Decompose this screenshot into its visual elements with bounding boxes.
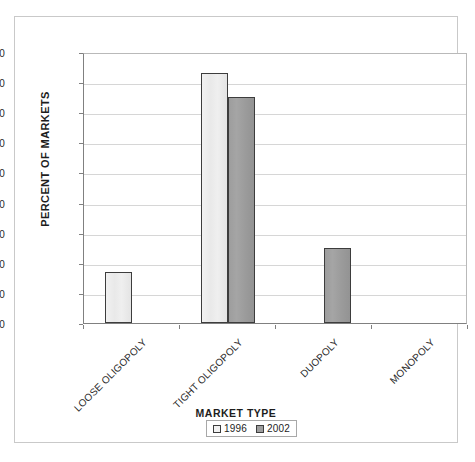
legend-swatch-icon [213, 425, 221, 433]
gridline [84, 295, 466, 296]
y-axis-tick-label: 90 [0, 48, 5, 59]
gridline [84, 235, 466, 236]
bar-1996-loose-oligopoly [105, 272, 132, 323]
x-axis-tick-mark [83, 325, 84, 329]
y-axis-tick-label: 10 [0, 288, 5, 299]
x-axis-tick-mark [467, 325, 468, 329]
x-axis-label-duopoly: DUOPOLY [298, 337, 341, 380]
gridline [84, 205, 466, 206]
y-axis: 0102030405060708090 [15, 17, 83, 361]
y-axis-tick-label: 70 [0, 108, 5, 119]
chart-frame: PERCENT OF MARKETS 0102030405060708090 L… [14, 16, 458, 443]
gridline [84, 174, 466, 175]
x-axis-label-loose-oligopoly: LOOSE OLIGOPOLY [72, 337, 149, 414]
legend-label: 1996 [224, 423, 247, 434]
y-axis-tick-label: 30 [0, 228, 5, 239]
plot-area [83, 53, 467, 324]
bar-1996-tight-oligopoly [201, 73, 228, 323]
y-axis-tick-label: 20 [0, 258, 5, 269]
x-axis-title: MARKET TYPE [15, 407, 457, 419]
legend-label: 2002 [267, 423, 290, 434]
y-axis-tick-label: 50 [0, 168, 5, 179]
legend-item-1996: 1996 [213, 423, 247, 434]
gridline [84, 144, 466, 145]
bar-2002-duopoly [324, 248, 351, 323]
y-axis-tick-label: 60 [0, 138, 5, 149]
bar-2002-tight-oligopoly [228, 97, 255, 323]
gridline [84, 84, 466, 85]
y-axis-tick-label: 80 [0, 78, 5, 89]
gridline [84, 114, 466, 115]
x-axis-label-tight-oligopoly: TIGHT OLIGOPOLY [171, 337, 245, 411]
gridline [84, 265, 466, 266]
x-axis-tick-mark [371, 325, 372, 329]
legend-swatch-icon [256, 425, 264, 433]
y-axis-tick-label: 40 [0, 198, 5, 209]
legend-item-2002: 2002 [256, 423, 290, 434]
x-axis-tick-mark [275, 325, 276, 329]
x-axis-tick-mark [179, 325, 180, 329]
y-axis-tick-label: 0 [0, 319, 5, 330]
chart-legend: 19962002 [206, 420, 297, 437]
x-axis-label-monopoly: MONOPOLY [388, 337, 437, 386]
